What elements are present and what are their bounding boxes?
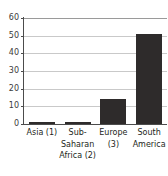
y-tick-label-20: 20 <box>0 85 19 93</box>
bar-slot <box>29 18 55 124</box>
x-category-label: SouthAmerica <box>127 127 168 150</box>
bar <box>136 34 162 124</box>
bar-slot <box>136 18 162 124</box>
x-category-label-line: America <box>127 139 168 151</box>
y-tick-label-10: 10 <box>0 102 19 110</box>
y-tick-label-30: 30 <box>0 67 19 75</box>
bar <box>65 122 91 124</box>
y-tick-label-60: 60 <box>0 14 19 22</box>
bar-series <box>24 18 167 124</box>
x-category-label-line: South <box>127 127 168 139</box>
bar-slot <box>100 18 126 124</box>
bar <box>29 122 55 124</box>
x-axis-line <box>23 124 167 125</box>
y-tick-label-0: 0 <box>0 120 19 128</box>
x-axis-category-labels: Asia (1)Sub-SaharanAfrica (2)Europe(3)So… <box>24 127 167 175</box>
y-tick-label-40: 40 <box>0 49 19 57</box>
bar-slot <box>65 18 91 124</box>
bar-chart: 0102030405060 Asia (1)Sub-SaharanAfrica … <box>0 0 168 176</box>
x-category-label-line: Africa (2) <box>56 150 100 162</box>
bar <box>100 99 126 124</box>
y-tick-label-50: 50 <box>0 32 19 40</box>
